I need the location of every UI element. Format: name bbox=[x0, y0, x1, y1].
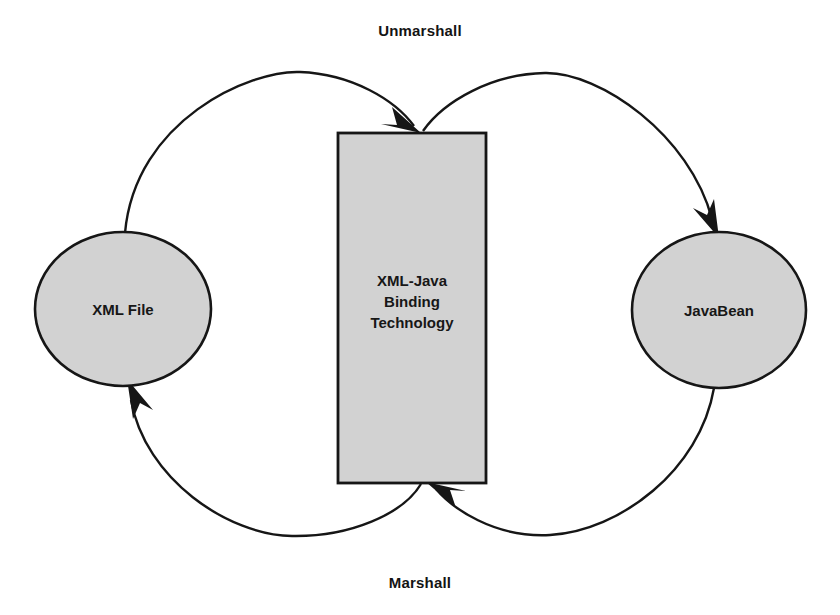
node-binding-technology[interactable]: XML-Java Binding Technology bbox=[338, 133, 486, 483]
binding-label-line-2: Binding bbox=[384, 293, 440, 310]
node-javabean[interactable]: JavaBean bbox=[632, 232, 806, 388]
diagram-canvas: XML File XML-Java Binding Technology Jav… bbox=[0, 0, 840, 615]
binding-label-line-3: Technology bbox=[370, 314, 454, 331]
node-xml-file[interactable]: XML File bbox=[35, 232, 211, 386]
binding-label-line-1: XML-Java bbox=[377, 272, 448, 289]
marshall-label: Marshall bbox=[389, 574, 451, 591]
xml-file-label: XML File bbox=[92, 301, 153, 318]
arrowhead-into-binding-bottom bbox=[426, 482, 466, 508]
unmarshall-label: Unmarshall bbox=[378, 22, 462, 39]
diagram-svg: XML File XML-Java Binding Technology Jav… bbox=[0, 0, 840, 615]
javabean-label: JavaBean bbox=[684, 302, 754, 319]
